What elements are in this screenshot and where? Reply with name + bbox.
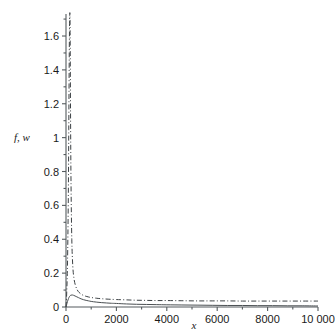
y-axis-label: f, w (14, 131, 31, 143)
y-tick-label: 1 (53, 132, 59, 144)
line-chart: 00.20.40.60.811.21.41.6 0200040006000800… (0, 0, 335, 336)
x-tick-label: 4000 (155, 313, 179, 325)
y-tick-label: 0.4 (44, 233, 59, 245)
y-tick-label: 1.6 (44, 30, 59, 42)
x-tick-label: 6000 (205, 313, 229, 325)
x-tick-label: 0 (63, 313, 69, 325)
y-tick-labels: 00.20.40.60.811.21.41.6 (44, 30, 59, 313)
x-tick-label: 10 000 (301, 313, 335, 325)
x-tick-label: 2000 (104, 313, 128, 325)
x-axis-label: x (191, 319, 197, 331)
y-tick-label: 1.4 (44, 64, 59, 76)
y-tick-label: 0.6 (44, 199, 59, 211)
chart-figure: 00.20.40.60.811.21.41.6 0200040006000800… (0, 0, 335, 336)
y-tick-label: 0.2 (44, 267, 59, 279)
y-tick-label: 1.2 (44, 98, 59, 110)
y-tick-label: 0 (53, 301, 59, 313)
x-tick-label: 8000 (255, 313, 279, 325)
y-tick-label: 0.8 (44, 166, 59, 178)
